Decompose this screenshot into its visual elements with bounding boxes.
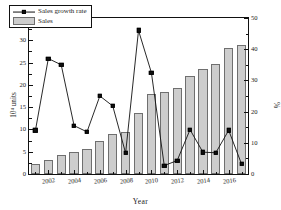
data-point-2013 [188,127,192,131]
axis-tick [48,170,49,174]
y-tick-label-right: 40 [251,46,258,53]
data-point-2011 [162,163,166,167]
data-point-2016 [226,128,230,132]
y-tick-label-left: 10 [19,126,26,133]
data-point-2015 [214,151,218,155]
data-point-2012 [175,158,179,162]
axis-tick [29,85,33,86]
axis-tick [246,96,249,97]
axis-tick [164,172,165,175]
plot-area: 0510152025303501020304050200220042006200… [28,17,249,175]
x-axis-label: Year [0,197,281,206]
data-point-2009 [136,28,140,32]
y-axis-label-left: 10⁴ units [10,92,18,117]
y-tick-label-left: 5 [23,148,26,155]
y-tick-label-right: 30 [251,77,258,84]
axis-tick [113,172,114,175]
axis-tick [244,49,248,50]
y-tick-label-left: 20 [19,82,26,89]
y-axis-label-right: % [272,102,281,108]
axis-tick [29,141,32,142]
x-tick-label: 2014 [196,177,210,185]
x-tick-label: 2010 [145,177,159,185]
legend-item-sales: Sales [13,17,87,25]
axis-tick [29,29,32,30]
x-tick-label: 2006 [93,177,107,185]
y-tick-label-right: 20 [251,108,258,115]
axis-tick [29,107,33,108]
axis-tick [29,129,33,130]
data-point-2006 [98,94,102,98]
y-tick-label-left: 25 [19,59,26,66]
axis-tick [242,172,243,175]
axis-tick [29,174,33,175]
axis-tick [244,143,248,144]
axis-tick [229,170,230,174]
axis-tick [216,172,217,175]
y-tick-label-right: 0 [251,171,254,178]
axis-tick [126,170,127,174]
data-point-2004 [72,123,76,127]
axis-tick [61,172,62,175]
y-tick-label-left: 30 [19,37,26,44]
axis-tick [190,172,191,175]
x-tick-label: 2016 [222,177,236,185]
chart-legend: Sales growth rate Sales [9,5,92,28]
axis-tick [246,127,249,128]
axis-tick [29,63,33,64]
axis-tick [151,170,152,174]
y-tick-label-right: 50 [251,15,258,22]
axis-tick [87,172,88,175]
y-tick-label-left: 15 [19,104,26,111]
legend-line-marker-icon [13,9,35,15]
x-tick-label: 2012 [171,177,185,185]
axis-tick [29,51,32,52]
axis-tick [29,74,32,75]
axis-tick [139,172,140,175]
axis-tick [177,170,178,174]
axis-tick [203,170,204,174]
data-point-2002 [46,56,50,60]
legend-label-sales: Sales [38,18,53,25]
data-point-2010 [149,70,153,74]
data-point-2017 [239,162,243,166]
data-point-2001 [33,128,37,132]
data-point-2014 [201,150,205,154]
axis-tick [29,152,33,153]
axis-tick [29,40,33,41]
data-point-2003 [59,63,63,67]
y-tick-label-right: 10 [251,140,258,147]
chart-figure: 10⁴ units % Year 05101520253035010203040… [0,0,281,210]
legend-item-growth-rate: Sales growth rate [13,8,87,15]
data-point-2008 [123,151,127,155]
axis-tick [244,18,248,19]
axis-tick [74,170,75,174]
x-tick-label: 2002 [42,177,56,185]
axis-tick [244,174,248,175]
x-tick-label: 2008 [119,177,133,185]
axis-tick [246,158,249,159]
axis-tick [29,118,32,119]
data-point-2005 [85,130,89,134]
axis-tick [29,96,32,97]
axis-tick [35,172,36,175]
axis-tick [100,170,101,174]
axis-tick [246,34,249,35]
legend-label-growth-rate: Sales growth rate [38,8,87,15]
axis-tick [246,65,249,66]
y-tick-label-left: 0 [23,171,26,178]
axis-tick [244,80,248,81]
x-tick-label: 2004 [68,177,82,185]
data-point-2007 [111,104,115,108]
axis-tick [29,163,32,164]
legend-bar-swatch-icon [13,17,35,25]
axis-tick [244,112,248,113]
